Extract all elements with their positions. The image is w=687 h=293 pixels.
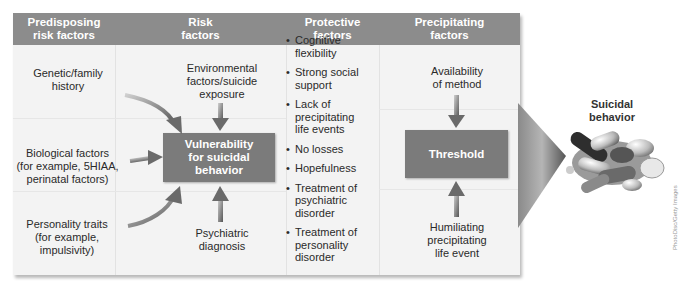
arrow-personality-icon <box>128 186 182 226</box>
arrows-layer <box>0 0 687 293</box>
pills-pile-image <box>566 129 664 195</box>
arrow-humiliating-icon <box>448 181 465 217</box>
arrow-psychiatric-icon <box>212 186 229 222</box>
photo-credit: PhotoDisc/Getty Images <box>672 185 678 250</box>
outcome-triangle-arrow-icon <box>518 103 566 228</box>
arrow-genetic-icon <box>125 95 182 134</box>
arrow-availability-icon <box>448 95 465 128</box>
arrow-biological-icon <box>130 150 163 165</box>
arrow-environmental-icon <box>212 103 229 131</box>
outcome-label: Suicidal behavior <box>577 98 647 124</box>
